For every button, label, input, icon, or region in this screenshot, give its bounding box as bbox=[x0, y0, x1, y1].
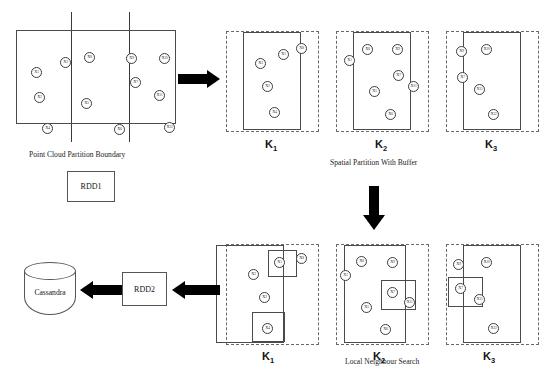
point-x3: X3 bbox=[60, 57, 71, 68]
point-search-k1-x8: X8 bbox=[296, 253, 307, 264]
point-search-k1-x4: X4 bbox=[262, 323, 273, 334]
partition-label-k2: K2 bbox=[375, 138, 387, 153]
point-x7: X7 bbox=[130, 77, 141, 88]
point-k1-x4: X4 bbox=[269, 107, 280, 118]
point-x4: X4 bbox=[42, 123, 53, 134]
point-x6: X6 bbox=[114, 124, 125, 135]
search-content-k3: X9X10X7X11X12 bbox=[446, 244, 539, 345]
arrow-shaft bbox=[178, 74, 208, 84]
point-x11: X11 bbox=[154, 90, 165, 101]
point-search-k2-x8: X8 bbox=[356, 256, 367, 267]
diagram-canvas: X1X3X8X9X10X2X7X5X11X4X6X12 Point Cloud … bbox=[0, 0, 556, 389]
point-search-k2-x9: X9 bbox=[387, 257, 398, 268]
point-k2-x8: X8 bbox=[362, 44, 373, 55]
point-k2-x5: X5 bbox=[369, 86, 380, 97]
point-search-k3-x11: X11 bbox=[474, 294, 485, 305]
point-k2-x9: X9 bbox=[392, 44, 403, 55]
point-search-k3-x10: X10 bbox=[481, 257, 492, 268]
caption-point-cloud: Point Cloud Partition Boundary bbox=[29, 150, 125, 159]
point-x2: X2 bbox=[34, 92, 45, 103]
point-search-k2-x7: X7 bbox=[387, 287, 398, 298]
point-k1-x2: X2 bbox=[262, 81, 273, 92]
point-search-k1-x3: X3 bbox=[248, 269, 259, 280]
cassandra-label: Cassandra bbox=[24, 288, 76, 297]
cylinder-top bbox=[24, 262, 76, 280]
point-k3-x9: X9 bbox=[456, 46, 467, 57]
point-x9: X9 bbox=[126, 53, 137, 64]
point-k2-x6: X6 bbox=[385, 109, 396, 120]
neighbour-search-k2: X8X9X1X7X11X5X6 bbox=[336, 244, 429, 345]
partition-points-k2: X8X9X1X7X5X11X6 bbox=[336, 31, 429, 132]
rdd2-node[interactable]: RDD2 bbox=[122, 272, 167, 306]
arrow-head bbox=[363, 215, 385, 230]
point-search-k2-x11: X11 bbox=[404, 297, 415, 308]
point-search-k3-x12: X12 bbox=[488, 323, 499, 334]
point-search-k1-x2: X2 bbox=[259, 292, 270, 303]
point-k2-x11: X11 bbox=[408, 81, 419, 92]
point-k3-x12: X12 bbox=[488, 109, 499, 120]
arrow-shaft bbox=[369, 186, 379, 216]
spatial-partition-k1: X3X1X8X2X4 bbox=[226, 31, 319, 132]
partition-points-k3: X9X10X7X11X12 bbox=[446, 31, 539, 132]
arrow-shaft bbox=[92, 285, 122, 295]
spatial-partition-k2: X8X9X1X7X5X11X6 bbox=[336, 31, 429, 132]
neighbour-search-k1: X1X8X3X2X4 bbox=[226, 244, 319, 345]
partition-points-k1: X3X1X8X2X4 bbox=[226, 31, 319, 132]
point-cloud-points: X1X3X8X9X10X2X7X5X11X4X6X12 bbox=[16, 30, 176, 124]
point-k2-x1: X1 bbox=[344, 55, 355, 66]
caption-local-neighbour-search: Local Neighbour Search bbox=[345, 357, 419, 366]
point-x1: X1 bbox=[31, 67, 42, 78]
arrow-partition-to-buffer bbox=[178, 70, 220, 88]
arrow-search-to-rdd2 bbox=[172, 281, 220, 299]
rdd1-node[interactable]: RDD1 bbox=[67, 171, 115, 202]
arrow-buffer-to-search bbox=[363, 186, 385, 230]
point-search-k1-x1: X1 bbox=[274, 257, 285, 268]
point-x12: X12 bbox=[164, 122, 175, 133]
search-content-k2: X8X9X1X7X11X5X6 bbox=[336, 244, 429, 345]
point-x8: X8 bbox=[84, 52, 95, 63]
search-label-k1: K1 bbox=[262, 350, 274, 365]
point-search-k2-x1: X1 bbox=[340, 270, 351, 281]
arrow-rdd2-to-cassandra bbox=[80, 281, 122, 299]
point-k1-x3: X3 bbox=[255, 58, 266, 69]
neighbour-search-k3: X9X10X7X11X12 bbox=[446, 244, 539, 345]
partition-label-k3: K3 bbox=[485, 138, 497, 153]
point-k1-x1: X1 bbox=[278, 49, 289, 60]
arrow-shaft bbox=[184, 285, 220, 295]
point-k3-x11: X11 bbox=[474, 84, 485, 95]
point-search-k2-x5: X5 bbox=[361, 302, 372, 313]
arrow-head bbox=[207, 70, 220, 88]
cassandra-database[interactable]: Cassandra bbox=[24, 262, 76, 318]
caption-spatial-partition: Spatial Partition With Buffer bbox=[330, 158, 417, 167]
point-x5: X5 bbox=[81, 98, 92, 109]
point-search-k2-x6: X6 bbox=[380, 324, 391, 335]
point-k3-x10: X10 bbox=[481, 44, 492, 55]
search-content-k1: X1X8X3X2X4 bbox=[226, 244, 319, 345]
point-k2-x7: X7 bbox=[393, 70, 404, 81]
point-cloud-group: X1X3X8X9X10X2X7X5X11X4X6X12 bbox=[14, 12, 180, 142]
search-label-k3: K3 bbox=[483, 350, 495, 365]
point-search-k3-x9: X9 bbox=[453, 259, 464, 270]
partition-label-k1: K1 bbox=[265, 138, 277, 153]
spatial-partition-k3: X9X10X7X11X12 bbox=[446, 31, 539, 132]
point-search-k3-x7: X7 bbox=[455, 283, 466, 294]
point-k3-x7: X7 bbox=[457, 72, 468, 83]
point-x10: X10 bbox=[159, 53, 170, 64]
point-k1-x8: X8 bbox=[296, 43, 307, 54]
